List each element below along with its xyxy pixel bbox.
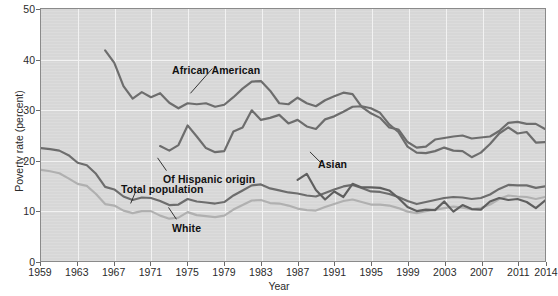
x-tick-label-1963: 1963	[65, 266, 88, 278]
y-tick-label-20: 20	[23, 155, 35, 167]
y-tick-label-40: 40	[23, 54, 35, 66]
x-tick-mark-1959	[40, 262, 41, 266]
poverty-rate-line-chart: 50 40 30 20 10 0 Poverty rate (percent)	[0, 0, 558, 296]
x-tick-mark-1987	[298, 262, 299, 266]
x-tick-label-2014: 2014	[534, 266, 557, 278]
x-tick-mark-1979	[224, 262, 225, 266]
x-tick-label-1971: 1971	[139, 266, 162, 278]
x-tick-mark-1983	[261, 262, 262, 266]
x-tick-mark-1975	[187, 262, 188, 266]
x-axis-title: Year	[0, 280, 558, 292]
x-tick-label-2007: 2007	[470, 266, 493, 278]
x-tick-mark-1967	[114, 262, 115, 266]
x-tick-mark-2014	[546, 262, 547, 266]
x-tick-label-1975: 1975	[176, 266, 199, 278]
leader-line-of-hispanic-origin	[158, 158, 167, 171]
x-tick-label-2003: 2003	[433, 266, 456, 278]
x-tick-label-1987: 1987	[286, 266, 309, 278]
x-tick-label-2011: 2011	[507, 266, 530, 278]
x-tick-label-1979: 1979	[212, 266, 235, 278]
x-tick-label-1991: 1991	[323, 266, 346, 278]
line-white	[41, 170, 545, 219]
series-label-african-american: African American	[172, 64, 260, 76]
x-tick-mark-1995	[371, 262, 372, 266]
y-tick-label-10: 10	[23, 205, 35, 217]
x-tick-label-1959: 1959	[28, 266, 51, 278]
y-tick-label-50: 50	[23, 3, 35, 15]
y-axis-title: Poverty rate (percent)	[13, 66, 25, 216]
series-label-white: White	[172, 222, 201, 234]
y-tick-label-30: 30	[23, 104, 35, 116]
x-tick-mark-2007	[482, 262, 483, 266]
x-tick-mark-1971	[150, 262, 151, 266]
plot-area	[40, 8, 546, 262]
x-tick-mark-2011	[518, 262, 519, 266]
line-of-hispanic-origin	[160, 106, 545, 157]
x-tick-mark-1963	[77, 262, 78, 266]
series-label-total-population: Total population	[121, 183, 203, 195]
x-tick-label-1967: 1967	[102, 266, 125, 278]
x-tick-mark-2003	[445, 262, 446, 266]
x-tick-mark-1991	[334, 262, 335, 266]
x-tick-label-1999: 1999	[396, 266, 419, 278]
series-lines	[41, 9, 545, 261]
line-asian	[298, 174, 545, 212]
x-tick-mark-1999	[408, 262, 409, 266]
x-tick-label-1983: 1983	[249, 266, 272, 278]
x-tick-label-1995: 1995	[360, 266, 383, 278]
series-label-asian: Asian	[318, 158, 347, 170]
